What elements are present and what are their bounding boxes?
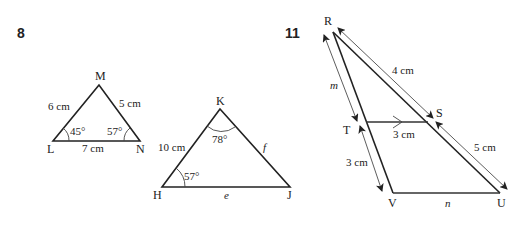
side-tv-label: 3 cm [346, 156, 368, 168]
vertex-m: M [95, 69, 106, 83]
vertex-n: N [136, 142, 145, 156]
angle-l-label: 45° [70, 125, 85, 137]
angle-h-label: 57° [184, 170, 199, 182]
vertex-l: L [47, 142, 54, 156]
vertex-k: K [216, 94, 225, 108]
vertex-s: S [436, 106, 443, 120]
vertex-r: R [324, 14, 332, 28]
side-hk-label: 10 cm [158, 141, 186, 153]
geometry-figures: M L N 6 cm 5 cm 7 cm 45° 57° K H J 10 cm… [0, 0, 527, 230]
side-mn-label: 5 cm [119, 97, 141, 109]
side-su-label: 5 cm [474, 141, 496, 153]
triangle-hkj: K H J 10 cm f e 78° 57° [153, 94, 292, 202]
triangle-lmn: M L N 6 cm 5 cm 7 cm 45° 57° [47, 69, 145, 156]
side-kj-label: f [263, 141, 268, 153]
vertex-u: U [497, 196, 506, 210]
side-rt-label: m [330, 79, 338, 91]
vertex-h: H [153, 188, 162, 202]
angle-k-label: 78° [212, 133, 227, 145]
vertex-j: J [287, 188, 292, 202]
side-lm-label: 6 cm [48, 100, 70, 112]
side-vu-label: n [445, 197, 451, 209]
side-hj-label: e [224, 189, 229, 201]
angle-n-label: 57° [107, 125, 122, 137]
side-rs-label: 4 cm [392, 64, 414, 76]
side-ts-label: 3 cm [393, 128, 415, 140]
vertex-v: V [388, 196, 397, 210]
vertex-t: T [343, 123, 351, 137]
side-ln-label: 7 cm [82, 142, 104, 154]
triangle-ruv-figure: R S T V U 4 cm 5 cm 3 cm 3 cm m n [324, 14, 507, 210]
